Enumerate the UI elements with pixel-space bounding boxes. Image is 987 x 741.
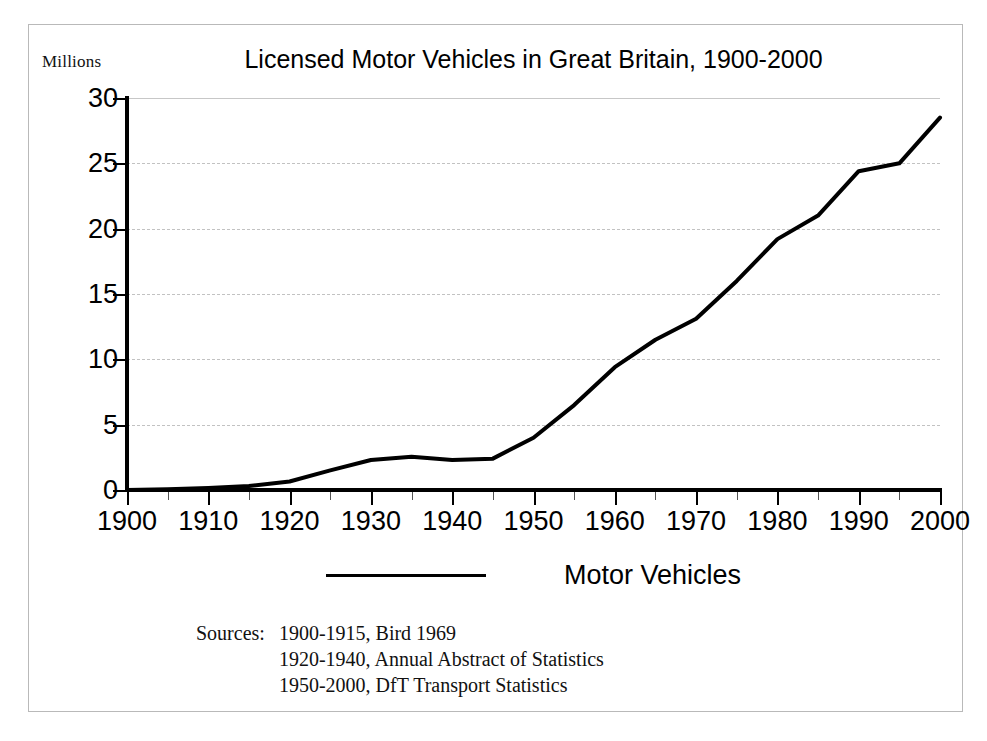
x-tick-1950 xyxy=(534,492,536,505)
y-tick-mark-30 xyxy=(113,98,125,100)
chart-title: Licensed Motor Vehicles in Great Britain… xyxy=(127,45,940,74)
x-tick-label-1910: 1910 xyxy=(178,506,238,537)
x-tick-label-1990: 1990 xyxy=(829,506,889,537)
x-tick-label-2000: 2000 xyxy=(910,506,970,537)
chart-legend: Motor Vehicles xyxy=(127,560,940,591)
y-tick-mark-20 xyxy=(113,229,125,231)
y-tick-mark-15 xyxy=(113,294,125,296)
y-tick-mark-10 xyxy=(113,359,125,361)
x-tick-1990 xyxy=(859,492,861,505)
source-line-3: 1950-2000, DfT Transport Statistics xyxy=(279,672,604,698)
x-tick-2000 xyxy=(940,492,942,505)
y-tick-mark-5 xyxy=(113,425,125,427)
sources-lines: 1900-1915, Bird 19691920-1940, Annual Ab… xyxy=(279,620,604,698)
x-minor-tick-1915 xyxy=(249,492,250,500)
sources-note: Sources: 1900-1915, Bird 19691920-1940, … xyxy=(196,620,604,698)
x-tick-1910 xyxy=(208,492,210,505)
legend-label-motor-vehicles: Motor Vehicles xyxy=(564,560,741,591)
y-tick-mark-0 xyxy=(113,490,125,492)
source-line-2: 1920-1940, Annual Abstract of Statistics xyxy=(279,646,604,672)
x-tick-label-1950: 1950 xyxy=(503,506,563,537)
x-tick-1980 xyxy=(777,492,779,505)
x-tick-1930 xyxy=(371,492,373,505)
x-minor-tick-1965 xyxy=(655,492,656,500)
legend-line-swatch xyxy=(326,574,486,577)
x-minor-tick-1945 xyxy=(493,492,494,500)
x-minor-tick-1975 xyxy=(737,492,738,500)
x-minor-tick-1905 xyxy=(168,492,169,500)
x-tick-1940 xyxy=(452,492,454,505)
x-tick-1960 xyxy=(615,492,617,505)
x-tick-label-1960: 1960 xyxy=(585,506,645,537)
x-tick-1970 xyxy=(696,492,698,505)
chart-page: Millions Licensed Motor Vehicles in Grea… xyxy=(0,0,987,741)
x-tick-1900 xyxy=(127,492,129,505)
y-axis-tick-labels: 051015202530 xyxy=(38,0,118,741)
x-minor-tick-1925 xyxy=(330,492,331,500)
x-minor-tick-1955 xyxy=(574,492,575,500)
x-tick-label-1920: 1920 xyxy=(260,506,320,537)
source-line-1: 1900-1915, Bird 1969 xyxy=(279,620,604,646)
y-tick-mark-25 xyxy=(113,163,125,165)
x-tick-label-1970: 1970 xyxy=(666,506,726,537)
x-minor-tick-1985 xyxy=(818,492,819,500)
x-tick-1920 xyxy=(290,492,292,505)
x-tick-label-1980: 1980 xyxy=(747,506,807,537)
y-axis-line xyxy=(125,96,129,492)
x-minor-tick-1995 xyxy=(899,492,900,500)
x-tick-label-1930: 1930 xyxy=(341,506,401,537)
plot-area xyxy=(127,98,940,490)
x-tick-label-1940: 1940 xyxy=(422,506,482,537)
sources-label: Sources: xyxy=(196,620,265,646)
series-motor-vehicles xyxy=(127,98,940,490)
x-tick-label-1900: 1900 xyxy=(97,506,157,537)
x-minor-tick-1935 xyxy=(412,492,413,500)
